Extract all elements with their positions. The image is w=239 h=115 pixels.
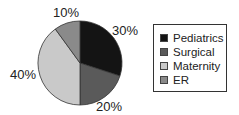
- slice-label-pediatrics: 30%: [112, 24, 138, 37]
- legend-swatch-er: [160, 76, 168, 84]
- legend-item-pediatrics: Pediatrics: [160, 32, 224, 44]
- legend-label: ER: [173, 74, 189, 86]
- legend-label: Surgical: [173, 46, 215, 58]
- slice-label-maternity: 40%: [10, 68, 36, 81]
- legend-swatch-maternity: [160, 62, 168, 70]
- legend-swatch-surgical: [160, 48, 168, 56]
- slice-label-er: 10%: [53, 6, 79, 19]
- legend-item-maternity: Maternity: [160, 60, 220, 72]
- legend-item-surgical: Surgical: [160, 46, 215, 58]
- legend: Pediatrics Surgical Maternity ER: [153, 24, 227, 92]
- legend-label: Pediatrics: [173, 32, 224, 44]
- legend-item-er: ER: [160, 74, 189, 86]
- slice-label-surgical: 20%: [96, 100, 122, 113]
- legend-swatch-pediatrics: [160, 34, 168, 42]
- pie-slices: [38, 21, 122, 105]
- legend-label: Maternity: [173, 60, 220, 72]
